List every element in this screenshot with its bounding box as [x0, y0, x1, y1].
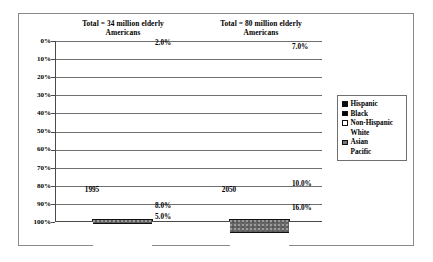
gridline [56, 132, 322, 133]
stacked-bar-1995[interactable]: 0.85 [92, 219, 153, 221]
y-tick-label: 60% [17, 145, 51, 153]
gridline [56, 150, 322, 151]
gridline [56, 95, 322, 96]
chart-root: Total = 34 million elderly Americans Tot… [0, 0, 433, 262]
bar-2050-title-line2: Americans [196, 28, 326, 37]
legend-item-hispanic[interactable]: Hispanic [342, 100, 403, 108]
x-tick-2050: 2050 [189, 186, 269, 194]
y-tick-label: 10% [17, 55, 51, 63]
bar-2050-title: Total = 80 million elderly Americans [196, 19, 326, 37]
legend-item-black[interactable]: Black [342, 110, 403, 118]
y-tick-label: 50% [17, 127, 51, 135]
legend-label-hispanic: Hispanic [351, 100, 378, 108]
y-tick-mark [51, 41, 55, 42]
legend-item-non-hispanic-white[interactable]: Non-Hispanic [342, 119, 403, 127]
y-tick-mark [51, 168, 55, 169]
legend-label-non-hispanic: Non-Hispanic [351, 119, 393, 127]
legend-swatch-hispanic-icon [342, 101, 348, 107]
gridline [56, 113, 322, 114]
stacked-bar-2050[interactable]: 0.67 [229, 219, 290, 221]
gridline [56, 168, 322, 169]
plot-top-border [56, 41, 322, 42]
y-tick-mark [51, 59, 55, 60]
y-tick-mark [51, 150, 55, 151]
legend-swatch-asian-pacific-icon [342, 140, 348, 146]
gridline [56, 77, 322, 78]
bar-1995-title: Total = 34 million elderly Americans [58, 19, 188, 37]
legend-swatch-non-hispanic-white-icon [342, 120, 348, 126]
y-tick-label: 20% [17, 73, 51, 81]
bar-2050-title-line1: Total = 80 million elderly [196, 19, 326, 28]
callout-label: 16.0% [292, 204, 312, 212]
x-tick-1995: 1995 [52, 186, 132, 194]
legend-label-white: White [351, 129, 370, 137]
gridline [56, 204, 322, 205]
legend-item-asian-pacific[interactable]: Asian [342, 138, 403, 146]
bar-segment-asian-pacific[interactable] [230, 220, 289, 233]
y-tick-mark [51, 77, 55, 78]
plot-area: 0.85 0.67 [55, 41, 322, 222]
chart-legend: Hispanic Black Non-Hispanic White Asian … [337, 95, 407, 161]
legend-item-pacific-cont: Pacific [351, 148, 404, 156]
bar-segment-non-hispanic-white[interactable] [93, 224, 152, 262]
y-tick-mark [51, 95, 55, 96]
bar-1995-title-line1: Total = 34 million elderly [58, 19, 188, 28]
y-tick-mark [51, 222, 55, 223]
gridline [56, 59, 322, 60]
callout-label: 8.0% [155, 202, 171, 210]
legend-label-pacific: Pacific [351, 148, 372, 156]
y-tick-label: 90% [17, 200, 51, 208]
legend-swatch-black-icon [342, 111, 348, 117]
y-tick-mark [51, 204, 55, 205]
y-tick-label: 40% [17, 109, 51, 117]
y-tick-label: 30% [17, 91, 51, 99]
y-tick-mark [51, 113, 55, 114]
legend-label-asian: Asian [351, 138, 369, 146]
legend-label-black: Black [351, 110, 369, 118]
y-tick-label: 80% [17, 182, 51, 190]
y-tick-label: 70% [17, 164, 51, 172]
callout-label: 2.0% [155, 39, 171, 47]
bar-segment-non-hispanic-white[interactable] [230, 233, 289, 262]
callout-label: 10.0% [292, 180, 312, 188]
bar-1995-title-line2: Americans [58, 28, 188, 37]
legend-item-white-cont: White [351, 129, 404, 137]
y-tick-label: 0% [17, 37, 51, 45]
callout-label: 7.0% [292, 43, 308, 51]
callout-label: 5.0% [155, 213, 171, 221]
y-tick-label: 100% [17, 218, 51, 226]
y-tick-mark [51, 132, 55, 133]
